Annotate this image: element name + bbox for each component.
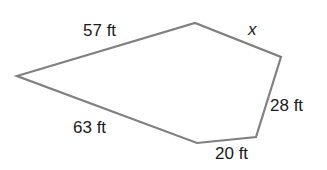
side-label-right: 28 ft (270, 97, 303, 114)
side-label-bottom-right: 20 ft (215, 145, 248, 162)
side-label-bottom-left: 63 ft (73, 119, 106, 136)
side-label-top-left: 57 ft (83, 22, 116, 39)
side-label-top-right-x: x (248, 21, 257, 38)
pentagon-outline (17, 23, 281, 143)
pentagon-figure (0, 0, 327, 170)
